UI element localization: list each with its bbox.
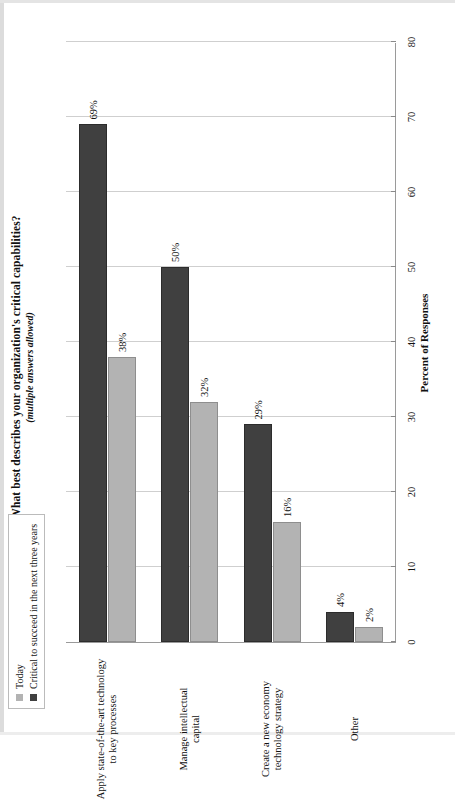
- legend-swatch-icon-critical: [30, 694, 37, 701]
- axis-tick: [391, 416, 396, 417]
- bar-critical-to-succeed-in-the-next-three-years: [326, 612, 354, 642]
- axis-tick: [391, 266, 396, 267]
- axis-tick-label: 80: [406, 37, 417, 48]
- legend-label-today: Today: [14, 664, 25, 689]
- axis-tick: [391, 41, 396, 42]
- bar-critical-to-succeed-in-the-next-three-years: [244, 425, 272, 643]
- bar-today: [355, 627, 383, 642]
- category-axis-label: Other: [349, 649, 361, 804]
- bar-value-label: 29%: [252, 400, 263, 419]
- category-axis-label-line: Other: [349, 649, 361, 804]
- category-axis-label-line: technology strategy: [272, 649, 284, 804]
- axis-tick-label: 30: [406, 412, 417, 423]
- legend-swatch-icon-today: [16, 694, 23, 701]
- axis-tick: [391, 566, 396, 567]
- bar-today: [108, 357, 136, 642]
- bar-value-label: 32%: [199, 378, 210, 397]
- bar-today: [273, 522, 301, 642]
- axis-tick-label: 10: [406, 562, 417, 573]
- bar-critical-to-succeed-in-the-next-three-years: [79, 125, 107, 643]
- axis-tick-label: 50: [406, 262, 417, 273]
- plot-area: 0102030405060708069%38%Apply state-of-th…: [66, 43, 396, 643]
- chart-legend: Today Critical to succeed in the next th…: [8, 514, 45, 709]
- axis-tick-label: 40: [406, 337, 417, 348]
- axis-tick: [391, 491, 396, 492]
- axis-tick-label: 0: [406, 639, 417, 644]
- gridline: [66, 266, 395, 267]
- category-axis-label-line: Manage intellectual: [178, 649, 190, 804]
- bar-value-label: 4%: [335, 593, 346, 607]
- gridline: [66, 191, 395, 192]
- bar-value-label: 50%: [170, 243, 181, 262]
- axis-tick: [391, 116, 396, 117]
- axis-tick-label: 70: [406, 112, 417, 123]
- category-axis-label-line: to key processes: [107, 649, 119, 804]
- axis-tick: [391, 341, 396, 342]
- axis-tick: [391, 191, 396, 192]
- value-axis-title: Percent of Responses: [418, 43, 430, 643]
- category-axis-label: Create a new economytechnology strategy: [260, 649, 284, 804]
- bar-critical-to-succeed-in-the-next-three-years: [161, 267, 189, 642]
- legend-item-today: Today: [14, 524, 25, 701]
- gridline: [66, 41, 395, 42]
- bar-today: [190, 402, 218, 642]
- category-axis-label: Apply state-of-the-art technologyto key …: [95, 649, 119, 804]
- legend-item-critical: Critical to succeed in the next three ye…: [28, 524, 39, 701]
- category-axis-label-line: capital: [190, 649, 202, 804]
- gridline: [66, 116, 395, 117]
- category-axis-label: Manage intellectualcapital: [178, 649, 202, 804]
- bar-value-label: 16%: [281, 498, 292, 517]
- axis-tick-label: 20: [406, 487, 417, 498]
- axis-tick-label: 60: [406, 187, 417, 198]
- legend-label-critical: Critical to succeed in the next three ye…: [28, 524, 39, 689]
- category-axis-label-line: Apply state-of-the-art technology: [95, 649, 107, 804]
- bar-value-label: 69%: [87, 100, 98, 119]
- bar-value-label: 38%: [116, 333, 127, 352]
- category-axis-label-line: Create a new economy: [260, 649, 272, 804]
- bar-value-label: 2%: [364, 608, 375, 622]
- axis-tick: [391, 641, 396, 642]
